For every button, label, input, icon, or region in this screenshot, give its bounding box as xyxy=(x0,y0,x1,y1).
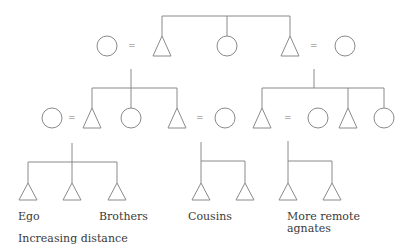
gen2-right-sibling-line xyxy=(262,69,384,108)
marriage-symbol: = xyxy=(310,40,318,50)
ego-label: Ego xyxy=(18,211,40,223)
remote-agnates-label: More remote agnates xyxy=(287,211,360,235)
marriage-symbol: = xyxy=(196,112,204,122)
female-symbol xyxy=(215,108,235,128)
caption-label: Increasing distance xyxy=(18,233,128,245)
marriage-symbol: = xyxy=(128,40,136,50)
marriage-symbol: = xyxy=(68,112,76,122)
female-symbol xyxy=(374,108,394,128)
female-symbol xyxy=(335,36,355,56)
brother-symbol xyxy=(63,183,81,200)
marriage-symbol: = xyxy=(284,112,292,122)
male-symbol xyxy=(253,108,271,128)
cousin-symbol xyxy=(192,183,210,200)
female-symbol xyxy=(97,36,117,56)
male-symbol xyxy=(281,36,299,56)
agnate-symbol xyxy=(279,183,297,200)
gen3-ego-sibling-line xyxy=(28,143,117,183)
male-symbol xyxy=(83,108,101,128)
brother-symbol xyxy=(108,183,126,200)
male-symbol xyxy=(168,108,186,128)
male-symbol xyxy=(339,108,357,128)
female-symbol xyxy=(217,36,237,56)
brothers-label: Brothers xyxy=(99,211,148,223)
female-symbol xyxy=(308,108,328,128)
gen3-remote-line xyxy=(288,141,332,183)
female-symbol xyxy=(121,108,141,128)
cousins-label: Cousins xyxy=(188,211,232,223)
cousin-symbol xyxy=(236,183,254,200)
gen2-left-sibling-line xyxy=(92,69,177,108)
gen1-sibling-line xyxy=(162,16,290,36)
ego-symbol xyxy=(19,183,37,200)
gen3-cousins-line xyxy=(201,142,245,183)
male-symbol xyxy=(153,36,171,56)
female-symbol xyxy=(42,108,62,128)
agnate-symbol xyxy=(323,183,341,200)
